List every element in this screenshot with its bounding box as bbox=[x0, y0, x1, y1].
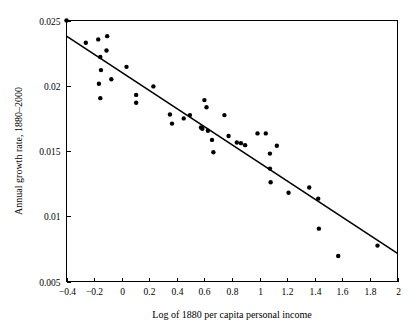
data-point bbox=[239, 141, 243, 145]
data-point bbox=[151, 84, 155, 88]
data-point bbox=[124, 65, 128, 69]
data-point bbox=[255, 131, 259, 135]
data-point bbox=[98, 55, 102, 59]
x-tick-label: 1.6 bbox=[337, 287, 349, 297]
y-tick-label: 0.015 bbox=[39, 147, 61, 157]
data-point bbox=[222, 113, 226, 117]
y-tick-label: 0.005 bbox=[39, 278, 61, 288]
data-point bbox=[202, 98, 206, 102]
data-point bbox=[275, 144, 279, 148]
data-point bbox=[243, 143, 247, 147]
data-point bbox=[109, 77, 113, 81]
data-point bbox=[134, 93, 138, 97]
data-point bbox=[204, 105, 208, 109]
data-point bbox=[268, 166, 272, 170]
data-point bbox=[98, 96, 102, 100]
x-tick-label: 1.8 bbox=[365, 287, 377, 297]
data-point bbox=[268, 180, 272, 184]
data-point bbox=[210, 138, 214, 142]
data-point bbox=[96, 37, 100, 41]
chart-canvas: −0.4−0.200.20.40.60.811.21.41.61.82 0.00… bbox=[0, 0, 417, 327]
x-tick-label: 0.6 bbox=[199, 287, 211, 297]
data-point bbox=[317, 226, 321, 230]
data-point bbox=[104, 48, 108, 52]
x-tick-label: −0.2 bbox=[86, 287, 103, 297]
x-tick-label: 0 bbox=[120, 287, 125, 297]
data-point bbox=[134, 101, 138, 105]
y-tick-label: 0.01 bbox=[44, 212, 61, 222]
x-tick-label: 1.4 bbox=[310, 287, 322, 297]
x-tick-label: 0.4 bbox=[172, 287, 184, 297]
data-point bbox=[64, 18, 68, 22]
data-point bbox=[235, 140, 239, 144]
data-point bbox=[84, 40, 88, 44]
scatter-plot-figure: −0.4−0.200.20.40.60.811.21.41.61.82 0.00… bbox=[0, 0, 417, 327]
y-axis-title: Annual growth rate, 1880–2000 bbox=[13, 87, 24, 215]
data-point bbox=[264, 131, 268, 135]
x-tick-label: −0.4 bbox=[59, 287, 76, 297]
data-point bbox=[168, 112, 172, 116]
data-point bbox=[170, 121, 174, 125]
data-point bbox=[226, 134, 230, 138]
data-point bbox=[97, 82, 101, 86]
x-tick-label: 1.2 bbox=[282, 287, 294, 297]
y-tick-label: 0.02 bbox=[44, 82, 61, 92]
x-tick-label: 0.2 bbox=[144, 287, 156, 297]
data-point bbox=[200, 127, 204, 131]
chart-background bbox=[0, 0, 417, 327]
data-point bbox=[307, 185, 311, 189]
data-point bbox=[182, 116, 186, 120]
x-tick-label: 1 bbox=[258, 287, 263, 297]
x-tick-label: 2 bbox=[396, 287, 401, 297]
data-point bbox=[188, 113, 192, 117]
data-point bbox=[268, 151, 272, 155]
data-point bbox=[316, 196, 320, 200]
data-point bbox=[99, 68, 103, 72]
data-point bbox=[105, 34, 109, 38]
data-point bbox=[375, 243, 379, 247]
data-point bbox=[211, 150, 215, 154]
data-point bbox=[286, 191, 290, 195]
data-point bbox=[206, 129, 210, 133]
y-tick-label: 0.025 bbox=[39, 17, 61, 27]
data-point bbox=[336, 254, 340, 258]
x-axis-title: Log of 1880 per capita personal income bbox=[152, 309, 312, 320]
x-tick-label: 0.8 bbox=[227, 287, 239, 297]
